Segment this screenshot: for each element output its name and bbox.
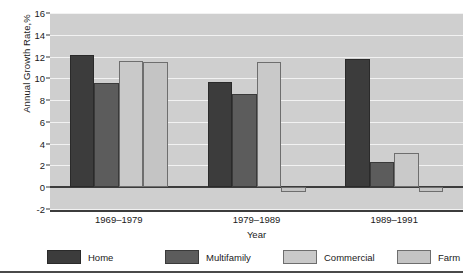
x-tick-label: 1979–1989 — [233, 214, 281, 225]
legend-label-farm: Farm — [438, 252, 460, 263]
legend-swatch-farm — [397, 250, 431, 264]
plot-area: 1614121086420-2 — [50, 13, 463, 209]
gridline — [50, 57, 463, 58]
legend-item-multifamily[interactable]: Multifamily — [165, 249, 251, 265]
y-tick-label: 14 — [34, 29, 45, 40]
y-tick-label: 12 — [34, 51, 45, 62]
y-tick-mark — [46, 187, 50, 188]
legend-label-multifamily: Multifamily — [206, 252, 251, 263]
plot-negative-band — [50, 187, 463, 209]
bar-home-1 — [208, 82, 233, 188]
bar-farm-0 — [143, 62, 168, 187]
y-tick-mark — [46, 56, 50, 57]
legend-label-home: Home — [88, 252, 113, 263]
bar-multifamily-0 — [94, 83, 119, 188]
y-tick-label: 0 — [40, 182, 45, 193]
legend-item-home[interactable]: Home — [47, 249, 113, 265]
y-tick-label: 8 — [40, 95, 45, 106]
legend-label-commercial: Commercial — [324, 252, 375, 263]
x-tick-label: 1989–1991 — [370, 214, 418, 225]
y-tick-mark — [46, 165, 50, 166]
y-tick-label: 4 — [40, 138, 45, 149]
y-tick-mark — [46, 143, 50, 144]
gridline — [50, 13, 463, 14]
bar-commercial-1 — [257, 62, 282, 187]
chart-legend: HomeMultifamilyCommercialFarm — [47, 249, 463, 265]
bar-farm-1 — [281, 187, 306, 191]
legend-swatch-home — [47, 250, 81, 264]
y-tick-mark — [46, 100, 50, 101]
y-tick-label: 10 — [34, 73, 45, 84]
bar-home-0 — [70, 55, 95, 187]
gridline — [50, 35, 463, 36]
y-tick-mark — [46, 34, 50, 35]
bar-commercial-0 — [119, 61, 144, 187]
bar-home-2 — [345, 59, 370, 187]
y-tick-mark — [46, 78, 50, 79]
y-axis-title: Annual Growth Rate,% — [21, 0, 32, 154]
bar-multifamily-2 — [370, 162, 395, 187]
y-tick-label: -2 — [37, 204, 45, 215]
y-tick-mark — [46, 121, 50, 122]
x-axis-line — [50, 210, 463, 212]
bar-multifamily-1 — [232, 94, 257, 188]
legend-item-farm[interactable]: Farm — [397, 249, 460, 265]
x-axis-title: Year — [50, 229, 463, 240]
y-tick-label: 16 — [34, 8, 45, 19]
x-tick-label: 1969–1979 — [95, 214, 143, 225]
y-tick-mark — [46, 13, 50, 14]
figure-bottom-rule — [0, 271, 463, 273]
bar-chart-figure: Annual Growth Rate,% 1614121086420-2 196… — [0, 0, 463, 276]
legend-item-commercial[interactable]: Commercial — [283, 249, 375, 265]
legend-swatch-multifamily — [165, 250, 199, 264]
y-tick-label: 2 — [40, 160, 45, 171]
bar-farm-2 — [419, 187, 444, 191]
legend-swatch-commercial — [283, 250, 317, 264]
y-tick-label: 6 — [40, 116, 45, 127]
bar-commercial-2 — [394, 153, 419, 187]
